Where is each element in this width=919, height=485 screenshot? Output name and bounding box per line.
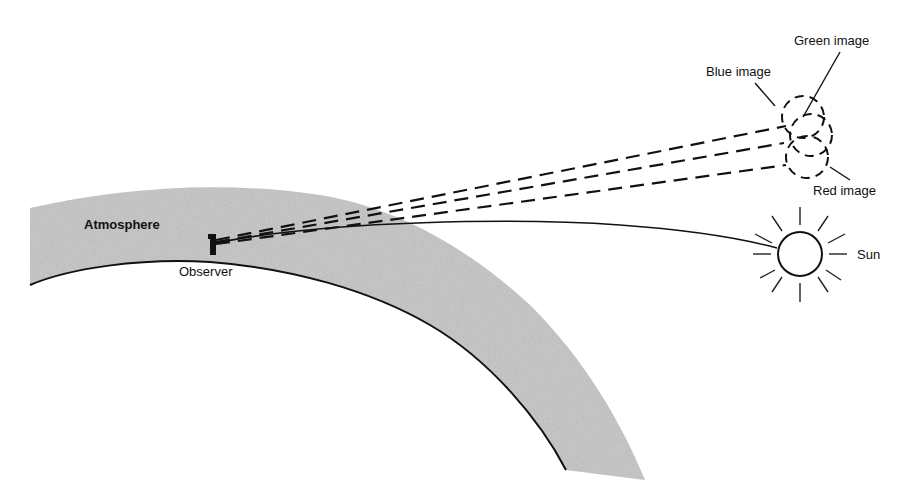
green-image-label: Green image (794, 33, 869, 48)
blue-image-label: Blue image (706, 64, 771, 79)
atmosphere-label: Atmosphere (84, 217, 160, 232)
blue-image-leader (755, 83, 775, 106)
red-image-label: Red image (813, 183, 876, 198)
red-image-leader (830, 167, 850, 180)
sun-label: Sun (857, 247, 880, 262)
red-image-circle (786, 136, 828, 178)
sun-icon (753, 207, 847, 302)
observer-label: Observer (179, 264, 233, 279)
atmospheric-dispersion-diagram: Atmosphere Observer Sun Blue image Green… (0, 0, 919, 485)
